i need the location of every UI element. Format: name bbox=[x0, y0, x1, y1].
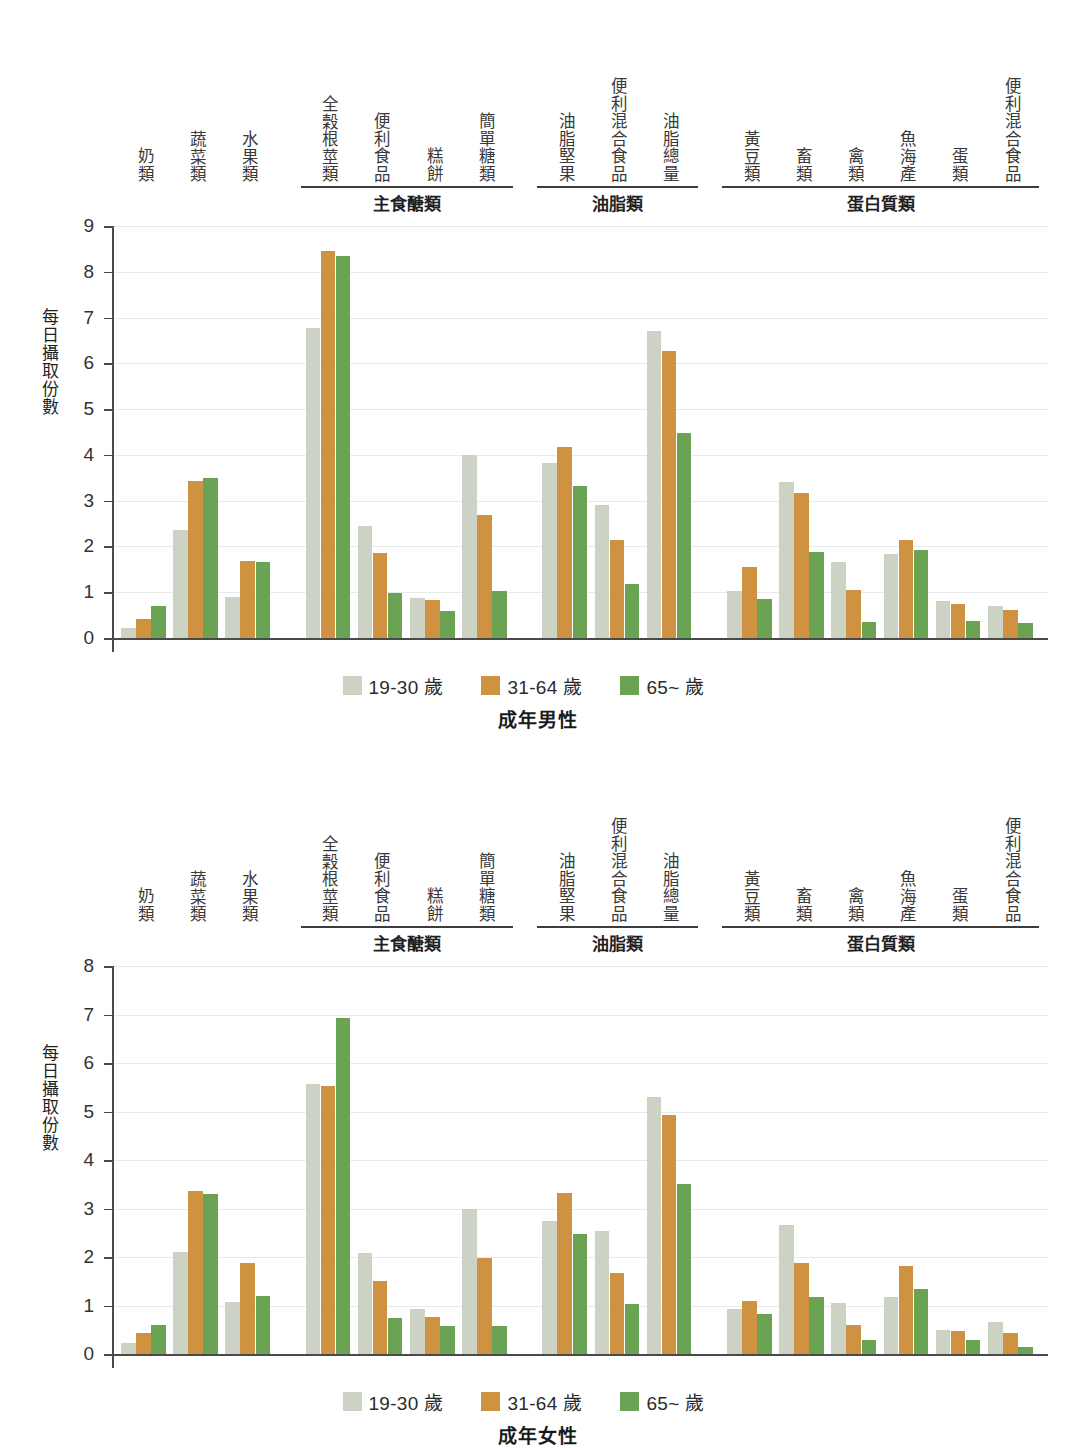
legend-swatch-icon bbox=[620, 1392, 639, 1411]
bar-3 bbox=[757, 1314, 772, 1354]
legend-item-1[interactable]: 19-30 歲 bbox=[343, 672, 444, 699]
bar-group bbox=[459, 966, 511, 1354]
group-header-2: 油脂類 bbox=[537, 930, 698, 955]
category-label-5: 便利食品 bbox=[372, 852, 389, 922]
bar-group bbox=[303, 226, 355, 638]
category-label-10: 油脂總量 bbox=[661, 112, 678, 182]
legend-item-2[interactable]: 31-64 歲 bbox=[481, 1388, 582, 1415]
x-axis-line bbox=[112, 638, 1048, 640]
bar-group bbox=[118, 226, 170, 638]
y-tick-label: 1 bbox=[60, 1295, 94, 1317]
bar-3 bbox=[809, 1297, 824, 1354]
bar-1 bbox=[988, 1322, 1003, 1354]
y-tick-label: 2 bbox=[60, 1246, 94, 1268]
bar-2 bbox=[240, 1263, 255, 1354]
bar-2 bbox=[662, 1115, 677, 1354]
y-tick-label: 7 bbox=[60, 307, 94, 329]
y-tick-label: 2 bbox=[60, 535, 94, 557]
bar-2 bbox=[425, 600, 440, 638]
bar-3 bbox=[1018, 623, 1033, 638]
bar-1 bbox=[462, 1209, 477, 1355]
legend-item-1[interactable]: 19-30 歲 bbox=[343, 1388, 444, 1415]
y-tick-label: 0 bbox=[60, 1343, 94, 1365]
bar-3 bbox=[203, 478, 218, 638]
bar-2 bbox=[1003, 610, 1018, 638]
bar-group bbox=[933, 966, 985, 1354]
category-label-4: 全穀根莖類 bbox=[320, 835, 337, 923]
legend-swatch-icon bbox=[343, 676, 362, 695]
category-label-15: 蛋類 bbox=[950, 147, 967, 182]
bar-3 bbox=[388, 593, 403, 638]
bar-3 bbox=[914, 1289, 929, 1354]
y-tick-label: 5 bbox=[60, 1101, 94, 1123]
category-label-5: 便利食品 bbox=[372, 112, 389, 182]
group-header-1: 主食醣類 bbox=[301, 930, 514, 955]
category-label-11: 黃豆類 bbox=[741, 870, 758, 923]
bar-3 bbox=[677, 433, 692, 638]
bar-1 bbox=[884, 1297, 899, 1354]
category-label-6: 糕餅 bbox=[424, 147, 441, 182]
bar-2 bbox=[477, 515, 492, 638]
group-underline-1 bbox=[301, 926, 514, 928]
bar-2 bbox=[188, 481, 203, 638]
legend-item-3[interactable]: 65~ 歲 bbox=[620, 1388, 704, 1415]
bar-3 bbox=[336, 256, 351, 638]
bar-3 bbox=[492, 1326, 507, 1354]
legend-item-2[interactable]: 31-64 歲 bbox=[481, 672, 582, 699]
category-label-15: 蛋類 bbox=[950, 887, 967, 922]
bar-group bbox=[933, 226, 985, 638]
bar-group bbox=[644, 226, 696, 638]
bar-3 bbox=[625, 584, 640, 638]
y-axis-line bbox=[112, 226, 114, 652]
bar-3 bbox=[336, 1018, 351, 1354]
category-label-1: 奶類 bbox=[135, 887, 152, 922]
legend-item-3[interactable]: 65~ 歲 bbox=[620, 672, 704, 699]
bar-group bbox=[303, 966, 355, 1354]
y-axis-label: 每日攝取份數 bbox=[36, 308, 61, 416]
bar-group bbox=[881, 226, 933, 638]
category-label-8: 油脂堅果 bbox=[557, 112, 574, 182]
bar-3 bbox=[914, 550, 929, 638]
bar-1 bbox=[831, 562, 846, 638]
y-tick-label: 4 bbox=[60, 444, 94, 466]
bar-group bbox=[644, 966, 696, 1354]
y-tick-label: 0 bbox=[60, 627, 94, 649]
bar-2 bbox=[557, 1193, 572, 1354]
bar-group bbox=[592, 226, 644, 638]
bar-2 bbox=[477, 1258, 492, 1354]
bar-group bbox=[407, 226, 459, 638]
bar-2 bbox=[136, 619, 151, 638]
bar-group bbox=[592, 966, 644, 1354]
category-label-4: 全穀根莖類 bbox=[320, 95, 337, 183]
bar-1 bbox=[884, 554, 899, 638]
bar-2 bbox=[136, 1333, 151, 1354]
legend-label: 65~ 歲 bbox=[646, 672, 704, 699]
category-label-9: 便利混合食品 bbox=[609, 77, 626, 182]
y-tick-label: 8 bbox=[60, 261, 94, 283]
bar-2 bbox=[610, 1273, 625, 1354]
category-label-16: 便利混合食品 bbox=[1002, 77, 1019, 182]
bar-1 bbox=[595, 505, 610, 638]
bar-1 bbox=[121, 628, 136, 638]
y-tick-label: 4 bbox=[60, 1149, 94, 1171]
bar-group bbox=[118, 966, 170, 1354]
bar-2 bbox=[610, 540, 625, 638]
category-label-14: 魚海產 bbox=[898, 870, 915, 923]
y-tick-label: 8 bbox=[60, 955, 94, 977]
bar-3 bbox=[677, 1184, 692, 1354]
category-label-12: 畜類 bbox=[793, 147, 810, 182]
category-label-1: 奶類 bbox=[135, 147, 152, 182]
group-underline-1 bbox=[301, 186, 514, 188]
bar-1 bbox=[225, 597, 240, 638]
group-header-3: 蛋白質類 bbox=[722, 190, 1039, 215]
bar-3 bbox=[809, 552, 824, 638]
category-label-14: 魚海產 bbox=[898, 130, 915, 183]
category-label-3: 水果類 bbox=[240, 130, 257, 183]
bar-1 bbox=[936, 1330, 951, 1354]
bar-2 bbox=[557, 447, 572, 638]
bar-group bbox=[724, 226, 776, 638]
category-label-6: 糕餅 bbox=[424, 887, 441, 922]
bar-2 bbox=[425, 1317, 440, 1354]
bar-1 bbox=[779, 482, 794, 638]
bar-group bbox=[355, 226, 407, 638]
